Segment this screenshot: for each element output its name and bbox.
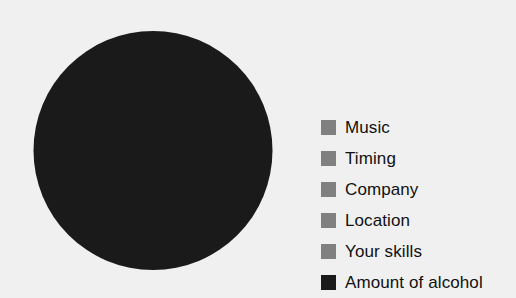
legend-swatch-music — [321, 120, 336, 135]
pie-svg — [33, 30, 273, 271]
legend-item-location[interactable]: Location — [321, 205, 507, 236]
legend-label-location: Location — [345, 211, 410, 230]
legend-label-music: Music — [345, 118, 390, 137]
pie-slice-group — [34, 31, 273, 270]
pie-chart-figure: Music Timing Company Location Your skill… — [0, 0, 516, 298]
legend-item-timing[interactable]: Timing — [321, 143, 507, 174]
legend-item-music[interactable]: Music — [321, 112, 507, 143]
legend-swatch-company — [321, 182, 336, 197]
legend-swatch-your-skills — [321, 244, 336, 259]
legend-label-your-skills: Your skills — [345, 242, 422, 261]
legend-swatch-location — [321, 213, 336, 228]
legend-label-amount-of-alcohol: Amount of alcohol — [345, 273, 483, 292]
legend-swatch-timing — [321, 151, 336, 166]
legend-label-company: Company — [345, 180, 418, 199]
legend-item-your-skills[interactable]: Your skills — [321, 236, 507, 267]
legend-swatch-amount-of-alcohol — [321, 275, 336, 290]
legend-item-amount-of-alcohol[interactable]: Amount of alcohol — [321, 267, 507, 298]
pie-slice-amount-of-alcohol[interactable] — [34, 31, 273, 270]
legend: Music Timing Company Location Your skill… — [321, 112, 507, 298]
legend-item-company[interactable]: Company — [321, 174, 507, 205]
legend-label-timing: Timing — [345, 149, 396, 168]
pie-plot-area — [33, 30, 273, 271]
